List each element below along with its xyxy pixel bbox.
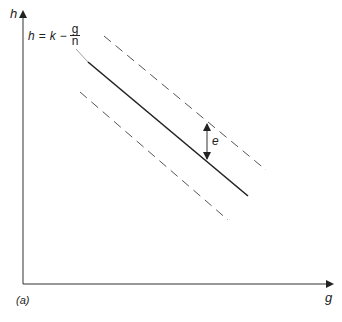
equation-lhs: h [28, 29, 35, 43]
e-label: e [212, 134, 219, 148]
diagram-graphics [0, 0, 342, 322]
lower-dashed-line [80, 92, 228, 220]
panel-label-text: (a) [16, 294, 29, 306]
x-axis-label: g [325, 290, 332, 305]
equation-minus: − [60, 29, 67, 43]
diagram-canvas: h g (a) e h = k − g n [0, 0, 342, 322]
upper-dashed-line [104, 36, 266, 170]
equation-leader-line [76, 49, 88, 62]
y-axis-label: h [10, 6, 17, 21]
equation-k: k [50, 29, 56, 43]
line-equation: h = k − g n [28, 24, 80, 47]
central-solid-line [88, 62, 248, 196]
fraction-denominator: n [70, 36, 81, 47]
equation-equals: = [39, 29, 46, 43]
equation-fraction: g n [70, 24, 81, 47]
panel-label: (a) [16, 294, 29, 306]
